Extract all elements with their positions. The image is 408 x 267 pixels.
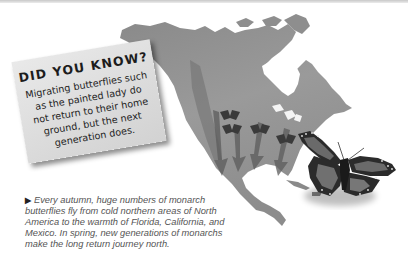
caption-line: ▶Every autumn, huge numbers of monarch	[25, 195, 240, 206]
caption-line: Mexico. In spring, new generations of mo…	[25, 228, 240, 239]
map-caption: ▶Every autumn, huge numbers of monarch b…	[25, 195, 240, 250]
caption-line: butterflies fly from cold northern areas…	[25, 206, 240, 217]
triangle-bullet-icon: ▶	[25, 196, 31, 205]
caption-line: America to the warmth of Florida, Califo…	[25, 217, 240, 228]
monarch-butterfly-icon	[298, 131, 396, 196]
caption-line: make the long return journey north.	[25, 239, 240, 250]
caption-line-text: Every autumn, huge numbers of monarch	[34, 195, 205, 205]
